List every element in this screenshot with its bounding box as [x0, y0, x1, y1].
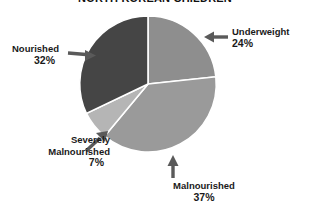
slice-label-underweight-text: Underweight — [232, 26, 290, 37]
pie-chart-figure: NORTH KOREAN CHILDREN Underweight — [0, 0, 310, 218]
arrow-left-icon — [204, 32, 228, 43]
slice-value-severely-malnourished: 7% — [6, 157, 110, 169]
slice-label-malnourished-text: Malnourished — [173, 180, 235, 191]
slice-label-nourished: Nourished 32% — [12, 43, 59, 66]
pie-slice-underweight[interactable] — [148, 16, 216, 84]
slice-label-severely-line1: Severely — [71, 134, 110, 145]
slice-label-severely-malnourished: Severely Malnourished 7% — [6, 134, 110, 169]
slice-value-nourished: 32% — [12, 55, 59, 67]
slice-label-underweight: Underweight 24% — [232, 26, 290, 49]
slice-label-malnourished: Malnourished 37% — [146, 180, 262, 203]
arrow-up-icon — [168, 155, 179, 178]
slice-label-nourished-text: Nourished — [12, 43, 59, 54]
slice-value-underweight: 24% — [232, 38, 290, 50]
slice-label-severely-line2: Malnourished — [48, 146, 110, 157]
slice-value-malnourished: 37% — [146, 192, 262, 204]
